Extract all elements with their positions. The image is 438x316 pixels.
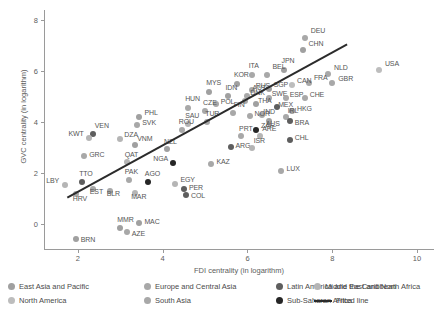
data-point[interactable] bbox=[253, 127, 259, 133]
data-point[interactable] bbox=[302, 35, 308, 41]
data-point-label: ITA bbox=[249, 62, 259, 69]
y-tick-mark bbox=[41, 20, 44, 21]
data-point-label: NOR bbox=[255, 110, 270, 117]
data-point[interactable] bbox=[329, 80, 335, 86]
data-point[interactable] bbox=[289, 82, 295, 88]
data-point-label: LUX bbox=[286, 165, 299, 172]
data-point-label: VNM bbox=[137, 135, 152, 142]
legend-label: Fitted line bbox=[336, 294, 369, 307]
data-point[interactable] bbox=[124, 159, 130, 165]
data-point-label: HUN bbox=[185, 95, 200, 102]
legend-dot-swatch bbox=[144, 283, 151, 290]
data-point-label: FIN bbox=[234, 101, 245, 108]
data-point[interactable] bbox=[183, 192, 189, 198]
data-point-label: MAR bbox=[131, 193, 146, 200]
legend-label: Middle East and North Africa bbox=[325, 280, 420, 293]
data-point-label: EST bbox=[90, 188, 103, 195]
legend-label: East Asia and Pacific bbox=[19, 280, 89, 293]
data-point[interactable] bbox=[264, 72, 270, 78]
y-tick-label: 0 bbox=[34, 220, 38, 229]
legend-label: Europe and Central Asia bbox=[155, 280, 236, 293]
legend-item[interactable]: Fitted line bbox=[314, 294, 369, 307]
data-point-label: AGO bbox=[145, 170, 160, 177]
data-point[interactable] bbox=[247, 113, 253, 119]
data-point[interactable] bbox=[124, 229, 130, 235]
data-point-label: PAK bbox=[125, 168, 138, 175]
y-tick-mark bbox=[41, 71, 44, 72]
data-point[interactable] bbox=[185, 105, 191, 111]
data-point[interactable] bbox=[249, 72, 255, 78]
data-point[interactable] bbox=[132, 142, 138, 148]
data-point[interactable] bbox=[208, 161, 214, 167]
data-point[interactable] bbox=[230, 110, 236, 116]
data-point[interactable] bbox=[300, 47, 306, 53]
legend-label: South Asia bbox=[155, 294, 191, 307]
plot-area: 02468 246810 DEUCHNUSAJPNNLDGBRITABELFRA… bbox=[44, 10, 434, 250]
data-point[interactable] bbox=[206, 89, 212, 95]
scatter-plot-figure: 02468 246810 DEUCHNUSAJPNNLDGBRITABELFRA… bbox=[0, 0, 438, 316]
data-point-label: AZE bbox=[132, 230, 145, 237]
data-point[interactable] bbox=[134, 122, 140, 128]
data-point-label: CAN bbox=[297, 77, 311, 84]
data-point-label: CHL bbox=[295, 134, 309, 141]
data-point[interactable] bbox=[79, 179, 85, 185]
legend-item[interactable]: Middle East and North Africa bbox=[314, 280, 420, 293]
data-point[interactable] bbox=[81, 153, 87, 159]
data-point-label: CHE bbox=[310, 91, 324, 98]
data-point-label: SGP bbox=[274, 81, 288, 88]
x-tick-mark bbox=[417, 250, 418, 253]
data-point-label: DZA bbox=[124, 131, 138, 138]
x-tick-labels: 246810 bbox=[44, 250, 434, 264]
data-point-label: KOR bbox=[234, 71, 249, 78]
legend-item[interactable]: Europe and Central Asia bbox=[144, 280, 236, 293]
data-point[interactable] bbox=[179, 127, 185, 133]
x-tick-label: 4 bbox=[161, 254, 165, 263]
data-point-label: MAC bbox=[144, 218, 159, 225]
data-point-label: GRC bbox=[89, 151, 104, 158]
data-point[interactable] bbox=[302, 95, 308, 101]
data-point[interactable] bbox=[238, 133, 244, 139]
data-point-label: IDN bbox=[225, 84, 237, 91]
data-point[interactable] bbox=[204, 119, 210, 125]
data-point-label: BRA bbox=[295, 119, 309, 126]
legend-dot-swatch bbox=[276, 297, 283, 304]
legend-dot-swatch bbox=[8, 297, 15, 304]
data-point-label: VEN bbox=[95, 122, 109, 129]
data-point[interactable] bbox=[376, 67, 382, 73]
legend-dot-swatch bbox=[314, 283, 321, 290]
data-point[interactable] bbox=[117, 225, 123, 231]
y-tick-label: 4 bbox=[34, 118, 38, 127]
data-point[interactable] bbox=[164, 146, 170, 152]
x-axis-title: FDI centrality (in logarithm) bbox=[44, 266, 434, 275]
data-point[interactable] bbox=[172, 181, 178, 187]
data-point[interactable] bbox=[287, 137, 293, 143]
data-point-label: MYS bbox=[206, 79, 221, 86]
data-point-label: POL bbox=[221, 98, 235, 105]
data-point[interactable] bbox=[181, 186, 187, 192]
data-point-label: QAT bbox=[125, 151, 139, 158]
data-point[interactable] bbox=[278, 168, 284, 174]
data-point[interactable] bbox=[287, 118, 293, 124]
data-point[interactable] bbox=[136, 220, 142, 226]
data-point-label: KWT bbox=[69, 130, 84, 137]
x-tick-label: 6 bbox=[245, 254, 249, 263]
x-tick-label: 10 bbox=[413, 254, 421, 263]
data-point[interactable] bbox=[228, 144, 234, 150]
data-point[interactable] bbox=[62, 182, 68, 188]
data-point[interactable] bbox=[117, 136, 123, 142]
legend-row-1: East Asia and PacificEurope and Central … bbox=[8, 280, 436, 293]
data-point[interactable] bbox=[145, 179, 151, 185]
legend-row-2: North AmericaSouth AsiaSub-Saharan Afric… bbox=[8, 294, 436, 307]
data-point[interactable] bbox=[86, 135, 92, 141]
y-tick-mark bbox=[41, 122, 44, 123]
legend-item[interactable]: East Asia and Pacific bbox=[8, 280, 89, 293]
legend-item[interactable]: South Asia bbox=[144, 294, 191, 307]
data-point[interactable] bbox=[126, 177, 132, 183]
data-point[interactable] bbox=[170, 160, 176, 166]
data-point-label: KAZ bbox=[216, 158, 229, 165]
legend-item[interactable]: North America bbox=[8, 294, 67, 307]
data-point[interactable] bbox=[73, 236, 79, 242]
x-tick-label: 2 bbox=[76, 254, 80, 263]
x-tick-mark bbox=[332, 250, 333, 253]
data-point[interactable] bbox=[249, 145, 255, 151]
